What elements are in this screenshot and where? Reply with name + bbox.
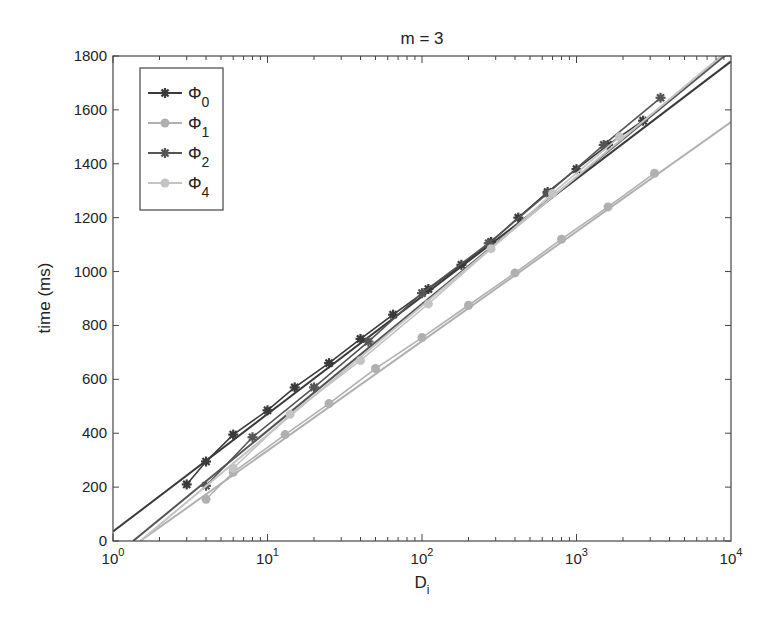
x-tick-label: 104: [720, 546, 743, 567]
y-tick-label: 1000: [74, 263, 107, 280]
svg-text:Di: Di: [415, 573, 430, 597]
y-axis-label: time (ms): [35, 263, 54, 334]
series-1: [140, 122, 731, 541]
x-tick-label: 103: [565, 546, 588, 567]
y-tick-label: 1200: [74, 209, 107, 226]
y-tick-label: 200: [82, 478, 107, 495]
y-tick-label: 1600: [74, 101, 107, 118]
x-axis-label: Di: [415, 573, 430, 597]
y-tick-label: 1800: [74, 47, 107, 64]
y-tick-label: 0: [99, 532, 107, 549]
y-tick-label: 600: [82, 370, 107, 387]
chart: m = 3 0200400600800100012001400160018001…: [0, 0, 773, 640]
series-4: [140, 48, 731, 541]
y-tick-label: 1400: [74, 155, 107, 172]
y-tick-label: 400: [82, 424, 107, 441]
x-tick-label: 101: [256, 546, 279, 567]
y-tick-label: 800: [82, 316, 107, 333]
x-tick-label: 102: [411, 546, 434, 567]
chart-title: m = 3: [401, 29, 444, 48]
legend: Φ0Φ1Φ2Φ4: [140, 68, 223, 210]
x-tick-label: 100: [102, 546, 125, 567]
